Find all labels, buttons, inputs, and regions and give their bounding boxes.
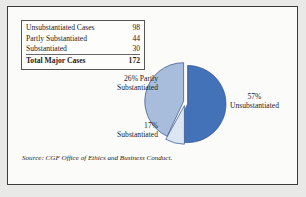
total-label: Total Major Cases: [26, 55, 124, 66]
pie-label-substantiated: 17% Substantiated: [86, 122, 158, 140]
table-row: Substantiated 30: [26, 44, 140, 55]
pie-label-partly-name: Substantiated: [80, 84, 158, 93]
row-label: Substantiated: [26, 44, 124, 55]
row-value: 44: [124, 33, 140, 43]
table-row: Unsubstantiated Cases 98: [26, 23, 140, 33]
stats-table-grid: Unsubstantiated Cases 98 Partly Substant…: [26, 23, 140, 66]
pie-label-partly-substantiated: 26% Partly Substantiated: [80, 75, 158, 93]
figure-frame: Unsubstantiated Cases 98 Partly Substant…: [7, 6, 298, 185]
source-note: Source: CGF Office of Ethics and Busines…: [22, 154, 172, 162]
row-label: Unsubstantiated Cases: [26, 23, 124, 33]
pie-label-substantiated-name: Substantiated: [86, 131, 158, 140]
row-label: Partly Substantiated: [26, 33, 124, 43]
row-value: 98: [124, 23, 140, 33]
stats-table: Unsubstantiated Cases 98 Partly Substant…: [21, 20, 145, 70]
row-value: 30: [124, 44, 140, 55]
total-value: 172: [124, 55, 140, 66]
stats-table-body: Unsubstantiated Cases 98 Partly Substant…: [26, 23, 140, 66]
table-row: Partly Substantiated 44: [26, 33, 140, 43]
table-row-total: Total Major Cases 172: [26, 55, 140, 66]
pie-label-unsubstantiated: 57% Unsubstantiated: [230, 93, 279, 111]
pie-label-unsubstantiated-name: Unsubstantiated: [230, 102, 279, 111]
